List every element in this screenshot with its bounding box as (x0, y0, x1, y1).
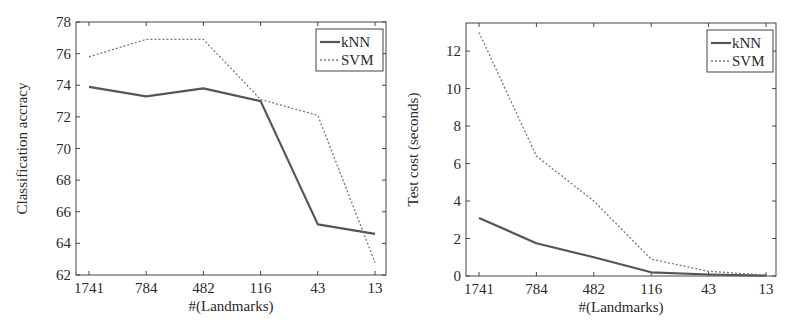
x-axis-label: #(Landmarks) (579, 299, 664, 316)
x-tick-label: 482 (192, 280, 215, 296)
y-tick-label: 70 (56, 141, 71, 157)
x-tick-label: 13 (759, 281, 774, 297)
y-tick-label: 66 (56, 204, 72, 220)
x-tick-label: 1741 (464, 281, 494, 297)
y-tick-label: 4 (454, 193, 462, 209)
x-tick-label: 1741 (74, 280, 104, 296)
y-tick-label: 2 (454, 231, 462, 247)
legend-label-knn: kNN (732, 35, 761, 51)
y-tick-label: 62 (56, 267, 71, 283)
legend: kNNSVM (707, 30, 773, 72)
legend-label-svm: SVM (732, 53, 765, 69)
series-line-knn (479, 218, 766, 276)
x-tick-label: 784 (525, 281, 548, 297)
x-tick-label: 43 (701, 281, 716, 297)
y-tick-label: 76 (56, 46, 72, 62)
y-tick-label: 74 (56, 77, 72, 93)
x-tick-label: 13 (368, 280, 383, 296)
figure: 62646668707274767817417844821164313#(Lan… (0, 0, 808, 335)
y-tick-label: 0 (454, 268, 462, 284)
y-tick-label: 12 (446, 43, 461, 59)
legend-label-knn: kNN (341, 34, 370, 50)
series-line-knn (89, 87, 375, 234)
x-tick-label: 43 (310, 280, 325, 296)
y-tick-label: 68 (56, 172, 71, 188)
legend-label-svm: SVM (341, 52, 374, 68)
y-axis-label: Classification accracy (14, 82, 30, 215)
test-cost-chart: 02468101217417844821164313#(Landmarks)Te… (405, 23, 776, 316)
x-tick-label: 116 (250, 280, 272, 296)
y-axis-label: Test cost (seconds) (405, 93, 422, 207)
series-line-svm (89, 39, 375, 262)
x-tick-label: 116 (640, 281, 662, 297)
x-tick-label: 784 (135, 280, 158, 296)
x-tick-label: 482 (583, 281, 606, 297)
y-tick-label: 8 (454, 118, 462, 134)
y-tick-label: 78 (56, 14, 71, 30)
legend: kNNSVM (316, 29, 383, 71)
x-axis-label: #(Landmarks) (189, 298, 274, 315)
y-tick-label: 72 (56, 109, 71, 125)
accuracy-chart: 62646668707274767817417844821164313#(Lan… (14, 14, 386, 315)
y-tick-label: 64 (56, 235, 72, 251)
y-tick-label: 6 (454, 156, 462, 172)
y-tick-label: 10 (446, 81, 461, 97)
